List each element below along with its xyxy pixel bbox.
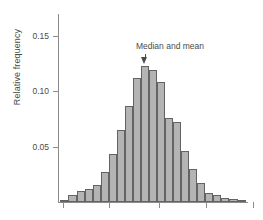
histogram-bar: [173, 122, 181, 202]
histogram-bar: [238, 200, 246, 202]
y-tick-label: 0.15: [21, 31, 49, 41]
histogram-bar: [149, 70, 157, 202]
histogram-bar: [221, 198, 229, 202]
histogram-bar: [101, 172, 109, 202]
histogram-bar: [60, 200, 68, 202]
histogram-figure: Relative frequency 0.050.100.15 Median a…: [0, 0, 263, 220]
x-tick-mark: [206, 202, 207, 208]
x-axis-line: [58, 202, 248, 203]
y-axis-title: Relative frequency: [12, 12, 22, 122]
histogram-bar: [93, 185, 101, 202]
histogram-bar: [205, 193, 213, 202]
histogram-bar: [197, 183, 205, 202]
y-tick-label: 0.10: [21, 86, 49, 96]
histogram-bar: [189, 169, 197, 202]
x-tick-mark: [63, 202, 64, 208]
x-tick-mark: [253, 202, 254, 208]
histogram-bar: [181, 151, 189, 202]
histogram-bar: [229, 199, 237, 202]
histogram-bar: [133, 78, 141, 202]
histogram-bar: [213, 195, 221, 202]
histogram-bar: [125, 106, 133, 202]
histogram-bar: [141, 66, 149, 202]
histogram-bar: [68, 195, 76, 202]
histogram-bar: [117, 130, 125, 202]
histogram-bar: [85, 189, 93, 202]
histogram-bar: [109, 154, 117, 202]
histogram-bar: [165, 118, 173, 202]
median-mean-annotation-label: Median and mean: [136, 41, 204, 51]
histogram-bar: [77, 191, 85, 202]
y-tick-label: 0.05: [21, 142, 49, 152]
x-tick-mark: [109, 202, 110, 208]
x-tick-mark: [159, 202, 160, 208]
histogram-bar: [157, 82, 165, 202]
annotation-arrow-head: [141, 57, 147, 64]
